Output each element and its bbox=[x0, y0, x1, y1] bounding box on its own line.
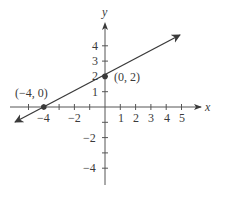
coordinate-plane: x y −4 −2 1 2 3 4 5 4 3 2 1 −2 −4 bbox=[0, 0, 228, 201]
y-tick-label: 4 bbox=[92, 39, 98, 53]
x-tick-label: −2 bbox=[68, 111, 81, 125]
x-tick-label: −4 bbox=[37, 111, 50, 125]
x-tick-label: 1 bbox=[118, 111, 124, 125]
x-tick-label: 2 bbox=[133, 111, 139, 125]
y-tick-label: 3 bbox=[92, 54, 98, 68]
y-tick-label: 1 bbox=[92, 85, 98, 99]
y-axis-label: y bbox=[101, 5, 108, 19]
point-label-y-intercept: (0, 2) bbox=[114, 70, 140, 84]
point-label-x-intercept: (−4, 0) bbox=[15, 86, 48, 100]
point-y-intercept bbox=[102, 74, 108, 80]
x-tick-label: 3 bbox=[148, 111, 154, 125]
x-axis-label: x bbox=[204, 100, 211, 114]
x-tick-label: 5 bbox=[179, 111, 185, 125]
y-tick-label: −2 bbox=[83, 131, 96, 145]
point-x-intercept bbox=[41, 104, 47, 110]
x-tick-label: 4 bbox=[164, 111, 170, 125]
y-tick-label: −4 bbox=[83, 161, 96, 175]
